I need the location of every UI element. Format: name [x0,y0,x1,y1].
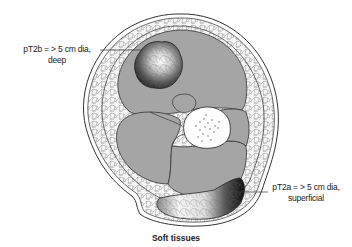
label-pt2a: pT2a = > 5 cm dia, superficial [264,182,348,204]
label-pt2b-line2: deep [12,55,102,66]
label-pt2b: pT2b = > 5 cm dia, deep [12,44,102,66]
figure-caption: Soft tissues [0,233,352,243]
small-muscle [173,94,196,113]
label-pt2a-line2: superficial [264,193,348,204]
label-pt2b-line1: pT2b = > 5 cm dia, [12,44,102,55]
limb-cross-section-diagram [0,0,352,247]
bone [184,107,231,148]
label-pt2a-line1: pT2a = > 5 cm dia, [264,182,348,193]
